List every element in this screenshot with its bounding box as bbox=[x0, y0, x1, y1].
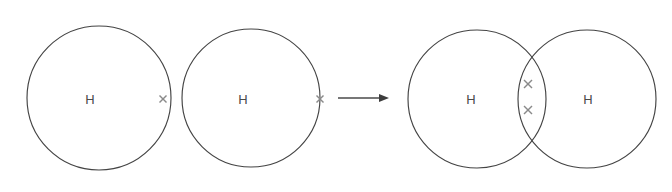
atom-label-hydrogen: H bbox=[466, 92, 476, 107]
product-atom-2: H bbox=[518, 30, 656, 168]
electron-shell-circle bbox=[182, 29, 320, 167]
reactant-atom-1: H bbox=[27, 26, 171, 170]
product-group: H H bbox=[408, 30, 656, 168]
atom-label-hydrogen: H bbox=[238, 92, 248, 107]
reactant-atom-2: H bbox=[182, 29, 324, 167]
reactants-group: H H bbox=[27, 26, 324, 170]
atom-label-hydrogen: H bbox=[583, 92, 593, 107]
dot-and-cross-diagram: Covalent bonding in a hydrogen molecule … bbox=[0, 0, 672, 192]
reaction-arrow-icon bbox=[338, 94, 389, 102]
atom-label-hydrogen: H bbox=[85, 92, 95, 107]
shared-electron-pair bbox=[524, 80, 532, 114]
electron-shell-circle bbox=[27, 26, 171, 170]
reaction-arrow-head bbox=[379, 94, 389, 102]
electron-cross-icon bbox=[524, 80, 532, 88]
product-atom-1: H bbox=[408, 30, 546, 168]
electron-cross-icon bbox=[524, 106, 532, 114]
electron-shell-circle bbox=[408, 30, 546, 168]
electron-cross-icon bbox=[160, 96, 167, 103]
diagram-canvas: Covalent bonding in a hydrogen molecule … bbox=[0, 0, 672, 192]
